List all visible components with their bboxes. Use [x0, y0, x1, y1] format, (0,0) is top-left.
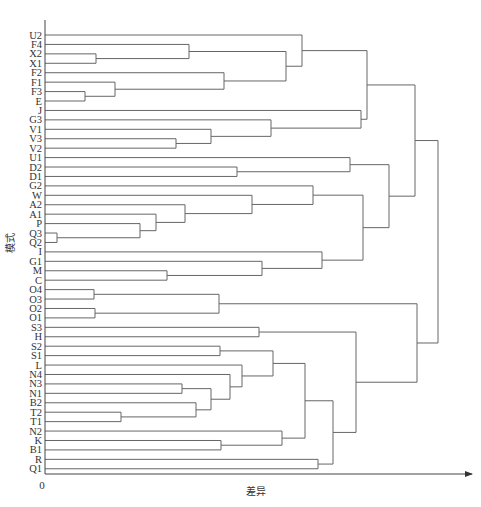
branch-m36 [45, 374, 230, 399]
branch-m15 [45, 233, 57, 242]
branch-m42 [45, 459, 318, 468]
branch-m8 [45, 139, 176, 148]
dendrogram-chart: U2F4X2X1F2F1F3EJG3V1V3V2U1D2D1G2WA2A1PQ3… [0, 0, 481, 507]
branch-m31 [45, 346, 220, 355]
branch-m44 [259, 332, 356, 432]
branch-m27 [45, 290, 94, 299]
branch-m11 [45, 110, 361, 128]
branch-m1 [45, 54, 96, 63]
dendrogram-branches [45, 35, 438, 469]
y-axis-title: 模式 [4, 233, 16, 253]
leaf-labels: U2F4X2X1F2F1F3EJG3V1V3V2U1D2D1G2WA2A1PQ3… [29, 30, 43, 475]
branch-m5 [45, 73, 224, 90]
branch-m10 [45, 120, 271, 137]
branch-m13 [45, 167, 237, 176]
branch-m21 [45, 271, 167, 280]
branch-m29 [94, 294, 219, 313]
branch-m2 [45, 92, 85, 101]
branch-m14 [45, 158, 350, 172]
branch-m45 [219, 304, 417, 382]
leaf-label: Q1 [29, 463, 42, 474]
branch-m25 [350, 165, 389, 228]
branch-m23 [45, 252, 322, 269]
branch-m38 [220, 351, 273, 376]
branch-m4 [45, 44, 189, 58]
branch-m12 [302, 51, 367, 120]
branch-m18 [45, 205, 185, 223]
branch-m33 [45, 384, 182, 393]
branch-m41 [273, 363, 305, 438]
branch-m43 [305, 401, 333, 464]
branch-m30 [45, 327, 259, 336]
branch-m3 [45, 82, 115, 96]
origin-label: 0 [39, 479, 45, 491]
branch-m16 [45, 224, 140, 238]
branch-m26 [367, 85, 415, 196]
branch-m32 [45, 412, 121, 421]
branch-m39 [45, 440, 221, 449]
branch-m40 [45, 431, 282, 445]
branch-m9 [45, 129, 211, 143]
branch-m7 [45, 35, 302, 66]
branch-m24 [313, 195, 363, 260]
branch-m6 [189, 52, 286, 81]
branch-m22 [45, 261, 262, 275]
branch-root [415, 141, 438, 343]
x-axis-title: 差异 [246, 485, 266, 497]
branch-m28 [45, 308, 95, 317]
branch-m17 [45, 214, 156, 231]
